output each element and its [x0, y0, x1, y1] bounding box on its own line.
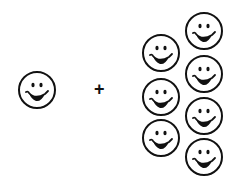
- smiley-face-icon: [143, 35, 179, 71]
- smiley-face-icon: [186, 56, 222, 92]
- smiley-face-icon: [143, 79, 179, 115]
- left-group: [19, 72, 55, 108]
- plus-operator: +: [94, 80, 105, 98]
- smiley-face-icon: [186, 98, 222, 134]
- smiley-face-icon: [143, 120, 179, 156]
- smiley-face-icon: [186, 139, 222, 175]
- smiley-face-icon: [186, 13, 222, 49]
- smiley-face-icon: [19, 72, 55, 108]
- right-group: [143, 13, 222, 175]
